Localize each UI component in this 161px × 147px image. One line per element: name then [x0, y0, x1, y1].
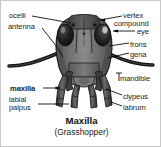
leader-ocelli	[32, 16, 71, 23]
label-clypeus: clypeus	[123, 93, 148, 101]
compound-eye-left-shape	[58, 24, 74, 46]
ocellus-right-shape	[93, 23, 96, 26]
label-frons: frons	[130, 41, 146, 49]
compound-eye-right-shape	[95, 24, 111, 46]
label-mandible: mandible	[120, 75, 150, 83]
clypeus-shape	[69, 63, 100, 77]
leader-labrum	[111, 102, 122, 106]
label-labrum: labrum	[123, 104, 146, 112]
label-ocelli: ocelli	[9, 12, 26, 20]
maxilla-grasshopper-figure: ocelli antenna maxilla labial palpus ver…	[0, 0, 161, 147]
label-antenna: antenna	[8, 23, 35, 31]
frons-shape	[79, 34, 90, 54]
figure-subtitle: (Grasshopper)	[1, 127, 161, 137]
label-gena: gena	[130, 51, 147, 59]
ocellus-left-shape	[71, 23, 74, 26]
figure-title: Maxilla	[1, 115, 161, 126]
label-labial-palpus-line2: palpus	[9, 103, 31, 112]
label-maxilla: maxilla	[10, 85, 35, 93]
label-labial-palpus: labial palpus	[9, 96, 31, 113]
arrowhead-compound-eye	[113, 29, 118, 32]
label-compound-eye-line2: eye	[137, 28, 149, 36]
